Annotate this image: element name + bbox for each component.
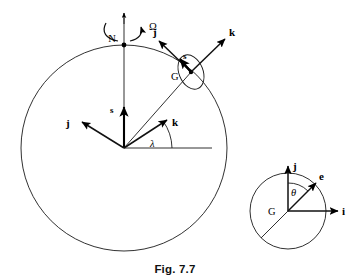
center-vector-j: [82, 122, 124, 148]
G-vector-k: [191, 39, 225, 72]
lambda-angle-label: λ: [149, 138, 155, 149]
center-vector-s-label: s: [110, 105, 114, 115]
theta-angle-label: θ: [291, 187, 296, 198]
north-pole-dot: [122, 43, 127, 48]
radius-line-center-to-G: [124, 71, 192, 148]
omega-rotation-arc-right: [130, 27, 142, 41]
figure-caption: Fig. 7.7: [0, 263, 350, 275]
body-vector-j-label: j: [292, 160, 297, 172]
body-vector-e-label: e: [319, 170, 324, 182]
G-point-label: G: [171, 71, 179, 82]
body-center-label: G: [268, 206, 276, 217]
body-vector-i-label: i: [342, 205, 345, 217]
figure-container: Ω N λ s j k G j k s: [0, 0, 350, 279]
north-pole-label: N: [108, 33, 116, 44]
center-vector-k-label: k: [172, 116, 179, 128]
G-vector-k-label: k: [229, 26, 236, 38]
lambda-angle-arc: [163, 121, 172, 148]
G-vector-j-label: j: [152, 26, 157, 38]
center-vector-j-label: j: [65, 117, 70, 129]
G-vector-s-label: s: [183, 51, 187, 61]
figure-7-7-diagram: Ω N λ s j k G j k s: [0, 0, 350, 279]
